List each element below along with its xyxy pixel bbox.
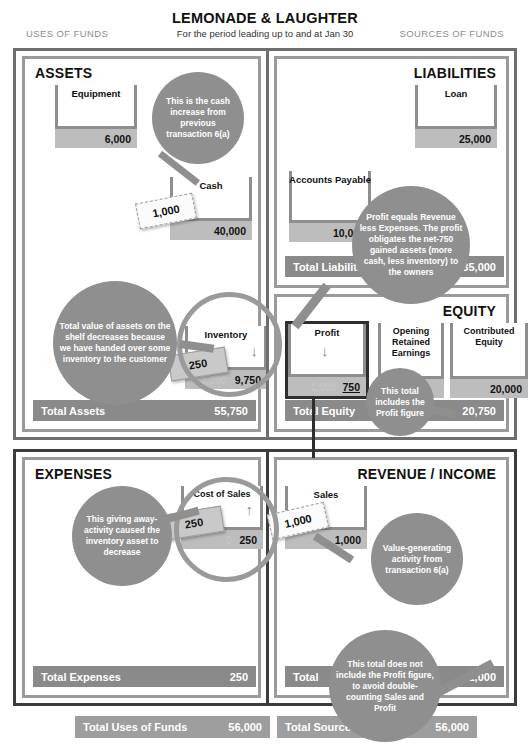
equity-panel-title: EQUITY	[443, 303, 496, 319]
expenses-panel-title: EXPENSES	[35, 466, 112, 482]
arrow-down-icon: ↓	[321, 343, 329, 358]
revenue-value-bubble-text: Value-generating activity from transacti…	[377, 543, 457, 576]
cash-value: 40,000	[214, 225, 246, 237]
sales-account-name: Sales	[285, 489, 367, 500]
cash-note-value: 1,000	[151, 202, 180, 219]
revenue-value-bubble: Value-generating activity from transacti…	[371, 513, 463, 605]
total-uses-of-funds-value: 56,000	[228, 721, 262, 733]
loan-account-name: Loan	[415, 88, 497, 99]
cost-of-sales-magnifier-ring	[174, 477, 279, 582]
total-expenses-bar: Total Expenses 250	[33, 666, 256, 687]
revenue-total-bubble: This total does not include the Profit f…	[329, 630, 441, 742]
profit-value-bar: 1,000 750	[288, 377, 366, 396]
assets-panel-title: ASSETS	[35, 65, 92, 81]
loan-value: 25,000	[459, 133, 491, 145]
cash-value-bar: 40,000	[170, 221, 252, 240]
profit-explanation-bubble: Profit equals Revenue less Expenses. The…	[352, 186, 470, 304]
contributed-equity-value: 20,000	[490, 383, 522, 395]
inventory-decrease-bubble-text: Total value of assets on the shelf decre…	[59, 321, 171, 365]
total-uses-of-funds-bar: Total Uses of Funds 56,000	[75, 716, 270, 738]
opening-retained-earnings-account-name: Opening Retained Earnings	[378, 326, 444, 359]
equity-total-bubble-text: This total includes the Profit figure	[372, 386, 428, 419]
total-assets-bar: Total Assets 55,750	[33, 400, 256, 421]
loan-value-bar: 25,000	[415, 129, 497, 148]
total-uses-of-funds-label: Total Uses of Funds	[83, 721, 187, 733]
revenue-panel-title: REVENUE / INCOME	[357, 466, 496, 482]
cash-account-name: Cash	[170, 180, 252, 191]
page-header: LEMONADE & LAUGHTER For the period leadi…	[0, 0, 530, 46]
cash-increase-bubble: This is the cash increase from previous …	[152, 72, 244, 164]
total-equity-label: Total Equity	[293, 405, 355, 417]
taccount-equipment: Equipment 6,000	[55, 85, 137, 149]
profit-connector-line	[312, 396, 315, 458]
expense-giveaway-bubble: This giving away-activity caused the inv…	[72, 486, 172, 586]
equipment-account-name: Equipment	[55, 88, 137, 99]
total-assets-label: Total Assets	[41, 405, 105, 417]
taccount-contributed-equity: Contributed Equity 20,000	[450, 323, 528, 399]
sales-value: 1,000	[335, 534, 361, 546]
uses-of-funds-label: USES OF FUNDS	[26, 28, 108, 39]
liabilities-panel-title: LIABILITIES	[414, 65, 496, 81]
equipment-value-bar: 6,000	[55, 129, 137, 148]
accounts-payable-account-name: Accounts Payable	[289, 174, 371, 185]
total-equity-value: 20,750	[462, 405, 496, 417]
contributed-equity-value-bar: 20,000	[450, 379, 528, 398]
total-sources-of-funds-value: 56,000	[435, 721, 469, 733]
taccount-loan: Loan 25,000	[415, 85, 497, 149]
profit-explanation-bubble-text: Profit equals Revenue less Expenses. The…	[358, 212, 464, 278]
equity-total-bubble: This total includes the Profit figure	[366, 368, 434, 436]
total-revenue-label: Total	[293, 671, 318, 683]
profit-account-name: Profit	[288, 327, 366, 338]
profit-old-value: 1,000	[310, 381, 336, 393]
total-expenses-label: Total Expenses	[41, 671, 121, 683]
sales-note-value: 1,000	[283, 512, 313, 530]
inventory-decrease-bubble: Total value of assets on the shelf decre…	[53, 281, 177, 405]
expense-giveaway-bubble-text: This giving away-activity caused the inv…	[78, 514, 166, 558]
taccount-profit: Profit ↓ 1,000 750	[285, 321, 369, 399]
cash-increase-bubble-text: This is the cash increase from previous …	[158, 96, 238, 140]
total-expenses-value: 250	[230, 671, 248, 683]
page-title: LEMONADE & LAUGHTER	[0, 10, 530, 26]
equipment-value: 6,000	[105, 133, 131, 145]
sources-of-funds-label: SOURCES OF FUNDS	[399, 28, 504, 39]
total-assets-value: 55,750	[214, 405, 248, 417]
profit-value: 750	[342, 381, 360, 393]
revenue-total-bubble-text: This total does not include the Profit f…	[335, 659, 435, 714]
contributed-equity-account-name: Contributed Equity	[450, 326, 528, 348]
